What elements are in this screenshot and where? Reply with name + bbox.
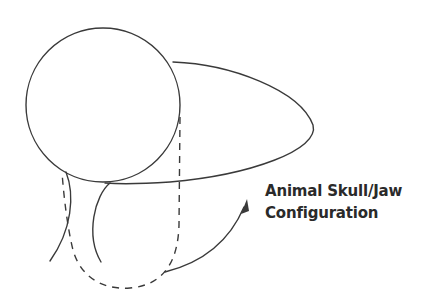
neck-left-curve (50, 172, 71, 261)
diagram-canvas: Animal Skull/Jaw Configuration (0, 0, 433, 303)
caption-line-2: Configuration (265, 200, 378, 226)
skull-circle (26, 28, 180, 182)
arrowhead-icon (241, 199, 249, 214)
neck-inner-curve (93, 183, 110, 262)
arrow-curve (165, 207, 244, 272)
jaw-ellipse (105, 62, 313, 184)
skull-jaw-sketch (0, 0, 433, 303)
dashed-hidden-contour (62, 117, 180, 288)
